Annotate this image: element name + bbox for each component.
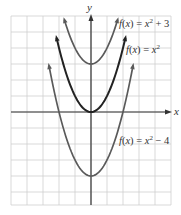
y-axis-arrow-icon xyxy=(89,14,94,21)
label-x2-minus-4: f(x) = x2 − 4 xyxy=(119,134,170,147)
y-axis-label: y xyxy=(86,1,92,13)
label-x2: f(x) = x2 xyxy=(126,43,160,56)
label-x2-plus-3: f(x) = x2 + 3 xyxy=(119,17,169,30)
function-graph: x y f(x) = x2 + 3 f(x) = x2 f(x) = x2 − … xyxy=(0,0,181,215)
curve-labels: f(x) = x2 + 3 f(x) = x2 f(x) = x2 − 4 xyxy=(119,17,170,147)
curve-arrow-icon xyxy=(63,17,67,23)
x-axis-label: x xyxy=(173,105,179,117)
